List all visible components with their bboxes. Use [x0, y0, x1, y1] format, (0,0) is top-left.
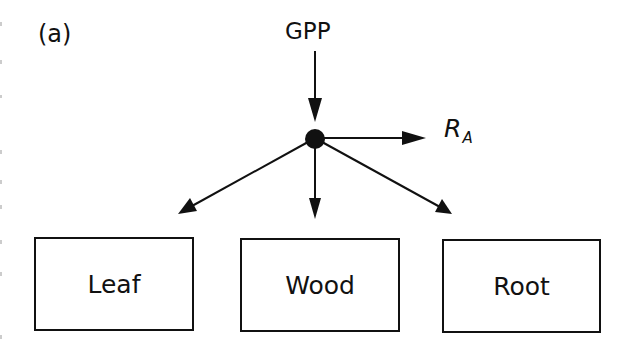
leaf-pool-label: Leaf — [88, 270, 141, 299]
ra-arrow — [322, 131, 426, 145]
junction-node — [305, 129, 325, 149]
root-pool-box: Root — [442, 239, 601, 333]
panel-label: (a) — [38, 20, 71, 48]
respiration-label-main: R — [444, 114, 461, 143]
wood-pool-label: Wood — [285, 271, 355, 300]
leaf-arrow — [178, 142, 308, 214]
gpp-label: GPP — [285, 18, 331, 44]
root-pool-label: Root — [493, 272, 550, 301]
respiration-label: RA — [444, 114, 473, 147]
leaf-pool-box: Leaf — [34, 237, 194, 331]
gpp-arrow — [308, 51, 322, 122]
wood-pool-box: Wood — [240, 238, 400, 332]
wood-arrow — [309, 146, 321, 219]
root-arrow — [322, 142, 452, 214]
respiration-label-subscript: A — [462, 129, 472, 147]
